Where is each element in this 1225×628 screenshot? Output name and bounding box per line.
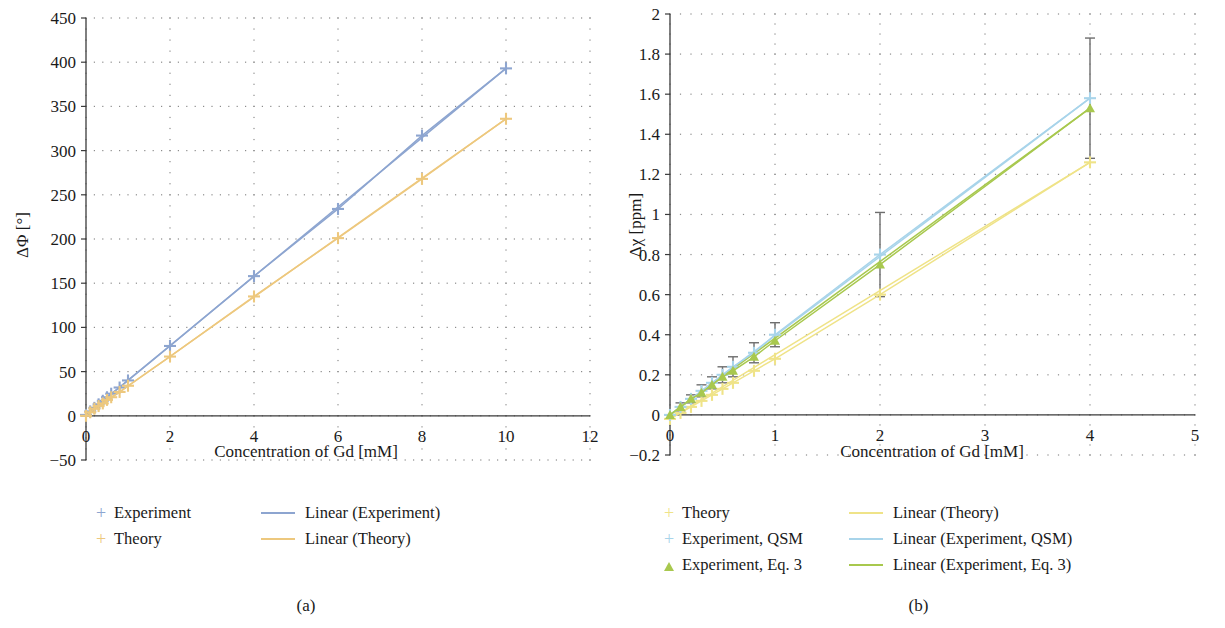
legend-item[interactable]: Linear (Experiment, QSM) xyxy=(849,526,1072,552)
legend-label: Linear (Experiment, Eq. 3) xyxy=(893,555,1071,575)
y-tick-label: 2 xyxy=(652,5,661,24)
legend-item[interactable]: +Theory xyxy=(656,500,803,526)
y-tick-label: 1.6 xyxy=(639,85,660,104)
legend-b: +Theory+Experiment, QSMExperiment, Eq. 3… xyxy=(656,500,1072,578)
legend-column-left: +Theory+Experiment, QSMExperiment, Eq. 3 xyxy=(656,500,803,578)
triangle-marker xyxy=(1085,103,1095,112)
legend-a: +Experiment+TheoryLinear (Experiment)Lin… xyxy=(88,500,440,552)
y-tick-label: 200 xyxy=(51,230,77,249)
chart-b-svg: −0.200.20.40.60.811.21.41.61.82012345 xyxy=(612,0,1225,480)
y-tick-label: 1.4 xyxy=(639,125,661,144)
y-tick-label: 350 xyxy=(51,97,77,116)
legend-label: Experiment, Eq. 3 xyxy=(682,555,802,575)
legend-line-swatch xyxy=(849,538,883,540)
x-axis-title-a: Concentration of Gd [mM] xyxy=(0,442,612,462)
legend-line-swatch xyxy=(849,564,883,566)
y-tick-label: 100 xyxy=(51,318,77,337)
legend-line-swatch xyxy=(261,538,295,540)
legend-item[interactable]: Linear (Theory) xyxy=(261,526,440,552)
legend-label: Experiment xyxy=(114,503,191,523)
y-axis-title-a: ΔΦ [°] xyxy=(13,170,33,300)
legend-plus-icon: + xyxy=(88,504,114,522)
legend-plus-icon: + xyxy=(656,504,682,522)
legend-label: Linear (Theory) xyxy=(893,503,999,523)
legend-line-swatch xyxy=(849,512,883,514)
subcaption-b: (b) xyxy=(612,596,1225,616)
legend-label: Theory xyxy=(114,529,162,549)
y-tick-label: 0.4 xyxy=(639,326,661,345)
legend-label: Theory xyxy=(682,503,730,523)
y-tick-label: 150 xyxy=(51,274,77,293)
legend-label: Linear (Experiment) xyxy=(305,503,440,523)
y-tick-label: 50 xyxy=(59,363,76,382)
legend-label: Experiment, QSM xyxy=(682,529,803,549)
legend-item[interactable]: +Theory xyxy=(88,526,191,552)
y-tick-label: 250 xyxy=(51,186,77,205)
data-series xyxy=(80,62,512,421)
y-tick-label: 0 xyxy=(68,407,77,426)
y-tick-label: 450 xyxy=(51,9,77,28)
gridlines xyxy=(669,13,1195,455)
legend-column-right: Linear (Theory)Linear (Experiment, QSM)L… xyxy=(849,500,1072,578)
y-tick-label: 1 xyxy=(652,205,661,224)
plot-b: −0.200.20.40.60.811.21.41.61.82012345 xyxy=(612,0,1225,480)
legend-item[interactable]: +Experiment, QSM xyxy=(656,526,803,552)
x-axis-title-b: Concentration of Gd [mM] xyxy=(642,442,1222,462)
legend-label: Linear (Theory) xyxy=(305,529,411,549)
y-axis-title-b: Δχ [ppm] xyxy=(626,160,646,290)
plot-a: −50050100150200250300350400450024681012 xyxy=(0,0,612,480)
legend-label: Linear (Experiment, QSM) xyxy=(893,529,1072,549)
legend-item[interactable]: Experiment, Eq. 3 xyxy=(656,552,803,578)
subcaption-a: (a) xyxy=(0,596,612,616)
error-bars xyxy=(676,38,1096,411)
legend-plus-icon: + xyxy=(88,530,114,548)
triangle-icon xyxy=(664,562,674,571)
legend-triangle-icon xyxy=(656,556,682,574)
y-tick-label: 300 xyxy=(51,142,77,161)
legend-plus-icon: + xyxy=(656,530,682,548)
legend-column-right: Linear (Experiment)Linear (Theory) xyxy=(261,500,440,552)
legend-item[interactable]: +Experiment xyxy=(88,500,191,526)
y-tick-label: 0 xyxy=(652,406,661,425)
panel-a: −50050100150200250300350400450024681012 … xyxy=(0,0,612,628)
y-tick-label: 1.8 xyxy=(639,45,660,64)
axes: −0.200.20.40.60.811.21.41.61.82012345 xyxy=(629,5,1199,465)
legend-item[interactable]: Linear (Experiment) xyxy=(261,500,440,526)
figure-container: −50050100150200250300350400450024681012 … xyxy=(0,0,1225,628)
y-tick-label: 0.2 xyxy=(639,366,660,385)
legend-line-swatch xyxy=(261,512,295,514)
data-series xyxy=(664,38,1096,425)
chart-a-svg: −50050100150200250300350400450024681012 xyxy=(0,0,612,480)
legend-item[interactable]: Linear (Theory) xyxy=(849,500,1072,526)
axes: −50050100150200250300350400450024681012 xyxy=(49,9,598,470)
y-tick-label: 400 xyxy=(51,53,77,72)
legend-item[interactable]: Linear (Experiment, Eq. 3) xyxy=(849,552,1072,578)
legend-column-left: +Experiment+Theory xyxy=(88,500,191,552)
panel-b: −0.200.20.40.60.811.21.41.61.82012345 Δχ… xyxy=(612,0,1225,628)
